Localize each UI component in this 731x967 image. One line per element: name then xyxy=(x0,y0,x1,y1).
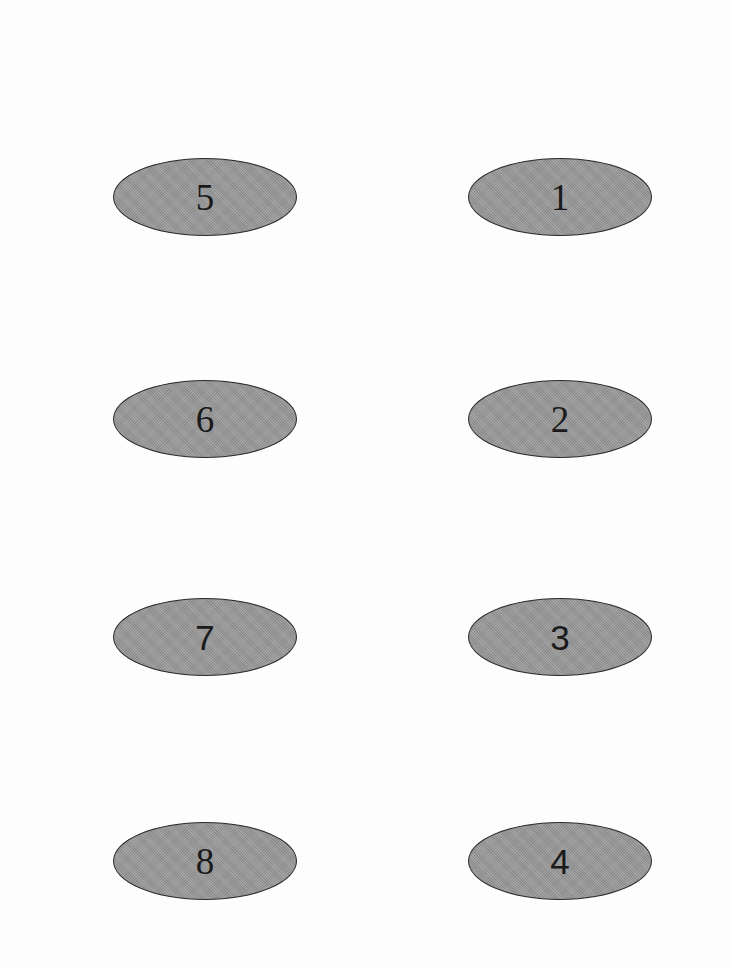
oval-8: 8 xyxy=(113,822,297,900)
oval-7: 7 xyxy=(113,598,297,676)
oval-label: 2 xyxy=(551,401,570,438)
diagram-page: 5 6 7 8 1 2 3 4 xyxy=(0,0,731,967)
oval-label: 7 xyxy=(195,620,214,655)
oval-label: 8 xyxy=(196,843,215,880)
oval-4: 4 xyxy=(468,822,652,900)
oval-3: 3 xyxy=(468,598,652,676)
oval-1: 1 xyxy=(468,158,652,236)
oval-label: 1 xyxy=(551,179,570,216)
oval-label: 3 xyxy=(550,620,569,655)
oval-label: 5 xyxy=(196,179,215,216)
oval-label: 6 xyxy=(196,401,215,438)
oval-5: 5 xyxy=(113,158,297,236)
oval-6: 6 xyxy=(113,380,297,458)
oval-2: 2 xyxy=(468,380,652,458)
oval-label: 4 xyxy=(550,844,569,879)
